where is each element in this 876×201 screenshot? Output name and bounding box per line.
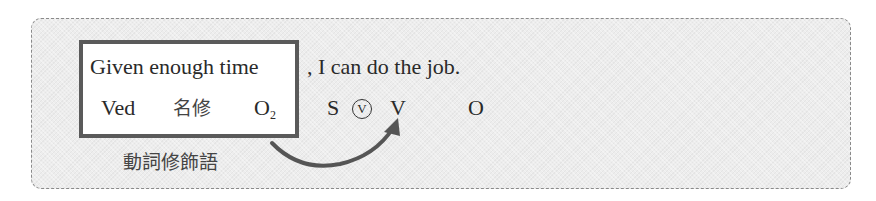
modifies-arrow-icon — [0, 0, 876, 201]
